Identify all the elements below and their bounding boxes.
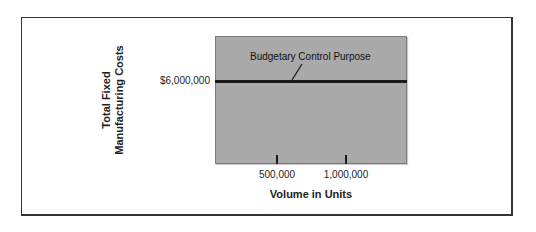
x-tick-label: 1,000,000 bbox=[324, 169, 369, 180]
x-tick bbox=[345, 155, 347, 164]
x-tick bbox=[276, 155, 278, 164]
x-tick-label: 500,000 bbox=[259, 169, 295, 180]
x-axis-title: Volume in Units bbox=[270, 188, 352, 200]
annotation-leader-line bbox=[0, 0, 536, 232]
